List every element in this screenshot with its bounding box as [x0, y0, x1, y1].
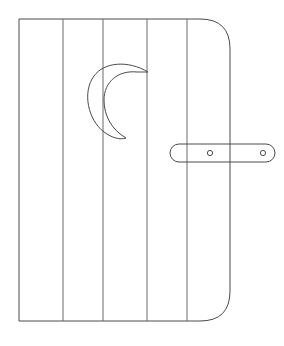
latch-handle[interactable] [170, 144, 275, 162]
illustration-root: Outhouse Door with Crescent Moon [0, 0, 284, 346]
screw-right-icon [260, 150, 265, 155]
door-line-drawing [0, 0, 284, 346]
screw-left-icon [207, 150, 212, 155]
crescent-moon-icon [88, 64, 148, 139]
